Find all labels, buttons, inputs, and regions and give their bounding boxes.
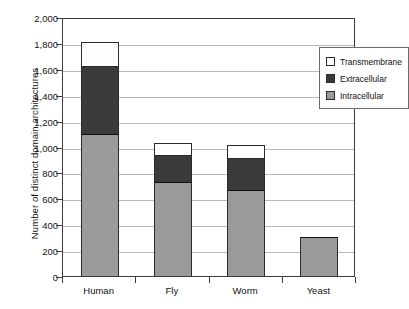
y-axis-tick-label: 2,000 xyxy=(0,13,58,24)
legend-swatch-transmembrane xyxy=(326,57,335,66)
legend-label: Intracellular xyxy=(340,91,384,101)
bar-segment-extracellular[interactable] xyxy=(227,159,265,191)
x-axis-tick-label-yeast: Yeast xyxy=(278,285,358,296)
bar-yeast[interactable] xyxy=(300,237,338,276)
plot-area: TransmembraneExtracellularIntracellular xyxy=(62,18,355,277)
y-axis-tick-label: 1,800 xyxy=(0,38,58,49)
y-axis-tick-label: 1,600 xyxy=(0,64,58,75)
bar-segment-extracellular[interactable] xyxy=(81,67,119,135)
bar-human[interactable] xyxy=(81,42,119,276)
legend-item-intracellular[interactable]: Intracellular xyxy=(326,87,408,104)
bar-segment-intracellular[interactable] xyxy=(227,191,265,276)
x-axis-tick-mark xyxy=(282,277,283,283)
y-axis-tick-label: 600 xyxy=(0,194,58,205)
x-axis-tick-label-human: Human xyxy=(59,285,139,296)
y-axis-tick-label: 800 xyxy=(0,168,58,179)
bar-segment-extracellular[interactable] xyxy=(154,156,192,184)
bar-segment-transmembrane[interactable] xyxy=(154,143,192,156)
bar-segment-intracellular[interactable] xyxy=(81,135,119,276)
x-axis-tick-mark xyxy=(62,277,63,283)
x-axis-tick-mark xyxy=(209,277,210,283)
x-axis-tick-label-fly: Fly xyxy=(132,285,212,296)
x-axis-tick-label-worm: Worm xyxy=(205,285,285,296)
legend-label: Transmembrane xyxy=(340,57,402,67)
legend-swatch-extracellular xyxy=(326,74,335,83)
y-axis-tick-label: 1,200 xyxy=(0,116,58,127)
bar-segment-transmembrane[interactable] xyxy=(81,42,119,67)
bar-segment-intracellular[interactable] xyxy=(300,238,338,276)
bar-fly[interactable] xyxy=(154,143,192,276)
y-axis-tick-label: 1,400 xyxy=(0,90,58,101)
legend-item-transmembrane[interactable]: Transmembrane xyxy=(326,53,408,70)
y-axis-tick-label: 0 xyxy=(0,272,58,283)
x-axis-tick-mark xyxy=(355,277,356,283)
legend-swatch-intracellular xyxy=(326,91,335,100)
y-axis-tick-label: 1,000 xyxy=(0,142,58,153)
bar-segment-transmembrane[interactable] xyxy=(227,145,265,160)
legend-item-extracellular[interactable]: Extracellular xyxy=(326,70,408,87)
bar-segment-intracellular[interactable] xyxy=(154,183,192,276)
legend-label: Extracellular xyxy=(340,74,387,84)
x-axis-tick-mark xyxy=(135,277,136,283)
y-axis-tick-label: 200 xyxy=(0,246,58,257)
chart-legend: TransmembraneExtracellularIntracellular xyxy=(319,47,409,109)
bar-worm[interactable] xyxy=(227,145,265,276)
y-axis-tick-label: 400 xyxy=(0,220,58,231)
